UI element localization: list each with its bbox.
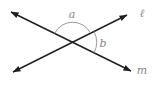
line-m-label: m [137, 64, 147, 77]
angle-b-arc [94, 32, 96, 53]
angle-a-label: a [69, 8, 76, 21]
angle-diagram: a b ℓ m [0, 0, 152, 88]
angle-diagram-canvas: a b ℓ m [0, 0, 152, 88]
line-l [13, 15, 127, 72]
line-l-label: ℓ [140, 7, 145, 20]
angle-b-label: b [99, 37, 106, 50]
angle-a-arc [55, 22, 91, 33]
